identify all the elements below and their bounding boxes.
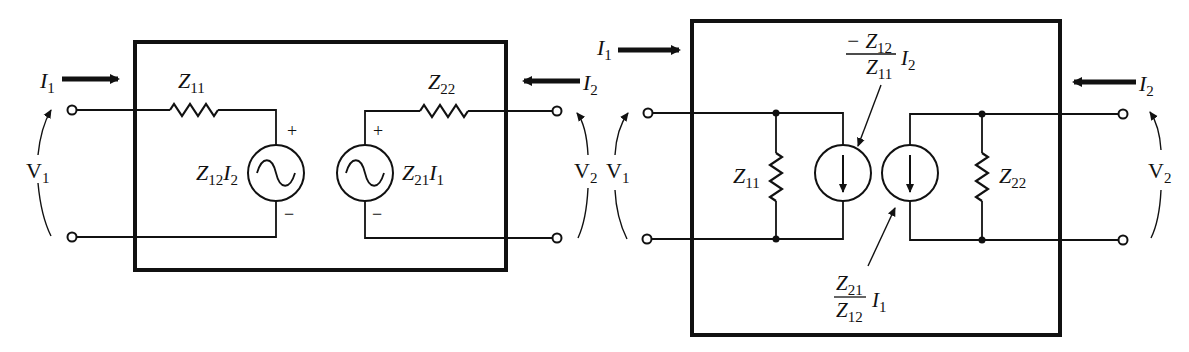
source-2-label: Z21I1 [402,160,444,188]
output-terminal-bottom [1119,236,1128,245]
wire [77,201,277,237]
voltage-arc-icon [38,110,51,155]
junction-dot [773,236,780,243]
plus-sign: + [287,121,297,141]
svg-text:I1: I1 [871,288,887,315]
input-terminal-top [68,106,77,115]
resistor-z11-icon [170,104,218,116]
svg-text:Z12: Z12 [836,298,863,325]
voltage-arc-icon [615,113,628,155]
leader-arrow-icon [858,85,881,146]
v2-label: V2 [1148,158,1171,186]
input-terminal-bottom [68,233,77,242]
network-box [135,42,506,270]
svg-text:Z11: Z11 [866,55,892,82]
voltage-arc-icon [577,113,588,155]
output-current-label: I2 [582,70,598,98]
source-2-gain-label: Z21 Z12 I1 [834,271,887,325]
v1-label: V1 [26,158,49,186]
input-terminal-bottom [643,235,652,244]
voltage-arc-icon [1150,112,1161,150]
svg-text:− Z12: − Z12 [846,29,892,56]
z22-label: Z22 [428,69,455,97]
plus-sign: + [373,121,383,141]
svg-text:Z21: Z21 [836,271,863,298]
junction-dot [773,110,780,117]
norton-circuit: I1 Z11 Z22 − Z12 [596,21,1171,335]
voltage-arc [38,183,51,236]
leader-arrow-icon [868,208,895,266]
two-port-network-figure: I1 Z11 + − Z12I2 + − Z21I1 Z22 I2 [0,0,1189,352]
resistor-z22-icon [420,105,468,117]
output-terminal-top [553,107,562,116]
wire [653,113,844,145]
minus-sign: − [372,204,382,224]
output-terminal-bottom [553,234,562,243]
wire [910,114,1119,145]
source-1-gain-label: − Z12 Z11 I2 [846,29,916,82]
voltage-arc [1151,190,1161,238]
wire [652,201,844,239]
wire [365,201,553,238]
output-current-label: I2 [1138,71,1154,99]
input-current-label: I1 [596,35,612,63]
v1-label: V1 [606,158,629,186]
minus-sign: − [284,204,294,224]
resistor-z22-icon [976,153,988,201]
z11-label: Z11 [733,163,760,191]
junction-dot [979,111,986,118]
source-1-label: Z12I2 [196,160,238,188]
wire [910,201,1119,240]
junction-dot [979,237,986,244]
z-parameter-circuit: I1 Z11 + − Z12I2 + − Z21I1 Z22 I2 [26,42,598,270]
output-terminal-top [1119,110,1128,119]
v2-label: V2 [574,158,597,186]
input-terminal-top [644,109,653,118]
wire [218,110,276,145]
z22-label: Z22 [999,163,1026,191]
input-current-label: I1 [39,68,55,96]
z11-label: Z11 [178,68,205,96]
resistor-z11-icon [770,153,782,201]
voltage-arc [578,188,588,238]
svg-text:I2: I2 [900,46,916,73]
voltage-arc [615,190,627,239]
